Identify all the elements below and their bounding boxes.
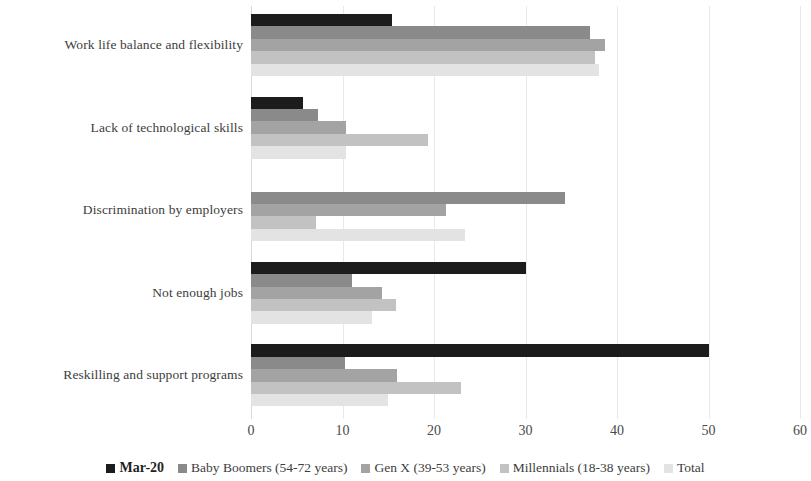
bar — [251, 39, 605, 51]
bar — [251, 121, 346, 133]
category-label: Work life balance and flexibility — [0, 38, 243, 52]
category-axis-labels: Work life balance and flexibilityLack of… — [0, 6, 243, 419]
legend-label: Total — [677, 461, 705, 475]
bar — [251, 394, 388, 406]
legend-item[interactable]: Millennials (18-38 years) — [500, 461, 650, 475]
bar — [251, 64, 599, 76]
legend-item[interactable]: Mar-20 — [106, 461, 164, 475]
bar — [251, 229, 465, 241]
x-tick-label: 10 — [336, 424, 350, 438]
x-tick-label: 40 — [610, 424, 624, 438]
legend-label: Baby Boomers (54-72 years) — [191, 461, 347, 475]
bar — [251, 369, 397, 381]
legend-label: Gen X (39-53 years) — [374, 461, 485, 475]
legend-item[interactable]: Gen X (39-53 years) — [361, 461, 485, 475]
bar — [251, 134, 428, 146]
bar — [251, 51, 595, 63]
plot-area — [251, 6, 800, 419]
bar — [251, 262, 526, 274]
bar — [251, 192, 565, 204]
bar — [251, 109, 318, 121]
bar — [251, 146, 346, 158]
x-tick-label: 60 — [793, 424, 807, 438]
category-label: Not enough jobs — [0, 286, 243, 300]
legend-swatch-icon — [106, 464, 115, 473]
horizontal-bar-chart: Work life balance and flexibilityLack of… — [0, 0, 811, 481]
bar-group — [251, 179, 800, 241]
bar — [251, 357, 345, 369]
legend-label: Millennials (18-38 years) — [513, 461, 650, 475]
category-label: Reskilling and support programs — [0, 368, 243, 382]
bar — [251, 382, 461, 394]
category-label: Lack of technological skills — [0, 121, 243, 135]
category-label: Discrimination by employers — [0, 203, 243, 217]
bar — [251, 26, 590, 38]
bar — [251, 97, 303, 109]
bar — [251, 274, 352, 286]
bar-group — [251, 262, 800, 324]
legend-swatch-icon — [361, 464, 370, 473]
bar — [251, 311, 372, 323]
x-tick-label: 20 — [427, 424, 441, 438]
legend-swatch-icon — [664, 464, 673, 473]
legend-item[interactable]: Baby Boomers (54-72 years) — [178, 461, 347, 475]
legend-swatch-icon — [178, 464, 187, 473]
bar — [251, 14, 392, 26]
legend-item[interactable]: Total — [664, 461, 705, 475]
value-axis-ticks: 0102030405060 — [0, 424, 811, 446]
bar — [251, 299, 396, 311]
x-tick-label: 0 — [248, 424, 255, 438]
chart-legend: Mar-20Baby Boomers (54-72 years)Gen X (3… — [0, 455, 811, 481]
x-tick-label: 30 — [519, 424, 533, 438]
bar-group — [251, 14, 800, 76]
legend-label: Mar-20 — [119, 461, 164, 475]
bar — [251, 204, 446, 216]
gridline-60 — [800, 6, 801, 419]
bar-group — [251, 97, 800, 159]
x-tick-label: 50 — [702, 424, 716, 438]
bar — [251, 216, 316, 228]
bar — [251, 344, 709, 356]
bar — [251, 287, 382, 299]
bar-group — [251, 344, 800, 406]
legend-swatch-icon — [500, 464, 509, 473]
